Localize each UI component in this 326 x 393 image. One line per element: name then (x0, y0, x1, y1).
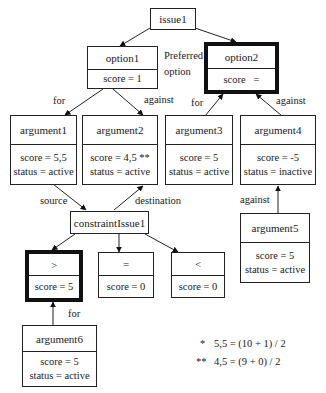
edge-label-for: for (53, 95, 65, 107)
node-title: argument1 (11, 116, 76, 145)
node-score: score = 0 (179, 280, 218, 294)
footnote-text: 4,5 = (9 + 0) / 2 (214, 356, 280, 367)
option1-node[interactable]: option1 score = 1 (87, 46, 158, 89)
node-score: score = 5 (40, 355, 79, 369)
preferred-label-line1: Preferred (164, 50, 203, 62)
edge-label-against: against (240, 194, 270, 206)
greater-than-node[interactable]: > score = 5 (25, 250, 83, 302)
node-score: score = -5 (257, 151, 299, 165)
node-title: > (29, 254, 79, 276)
footnote-marker: ** (196, 356, 214, 367)
node-title: = (99, 253, 153, 276)
node-title: argument4 (241, 116, 315, 145)
footnote-text: 5,5 = (10 + 1) / 2 (214, 338, 286, 349)
issue-node[interactable]: issue1 (150, 8, 196, 30)
node-status: status = active (245, 263, 305, 277)
argument5-node[interactable]: argument5 score = 5 status = active (240, 213, 310, 283)
edge-label-source: source (40, 195, 67, 207)
node-score: score = 0 (107, 280, 146, 294)
node-score: score = (224, 73, 260, 87)
node-title: option1 (88, 47, 157, 70)
node-score: score = 5 (35, 280, 74, 294)
node-title: < (172, 253, 224, 276)
node-status: status = active (13, 165, 73, 179)
footnote: *5,5 = (10 + 1) / 2 (200, 338, 286, 349)
node-status: status = inactive (244, 165, 312, 179)
node-title: argument5 (241, 214, 309, 243)
option2-node-preferred[interactable]: option2 score = (204, 42, 279, 94)
node-title: argument3 (166, 116, 232, 145)
argument1-node[interactable]: argument1 score = 5,5 status = active (10, 115, 77, 185)
edge-label-against: against (276, 95, 306, 107)
preferred-label-line2: option (164, 66, 203, 78)
node-score: score = 4,5 ** (90, 151, 150, 165)
less-than-node[interactable]: < score = 0 (171, 252, 225, 298)
node-title: argument6 (23, 326, 96, 352)
edge-label-destination: destination (135, 195, 181, 207)
equal-node[interactable]: = score = 0 (98, 252, 154, 298)
node-title: constraintIssue1 (71, 212, 148, 233)
node-status: status = active (90, 165, 150, 179)
constraint-issue-node[interactable]: constraintIssue1 (70, 211, 149, 234)
node-score: score = 1 (103, 72, 142, 86)
node-score: score = 5 (180, 151, 219, 165)
footnote-marker: * (200, 338, 214, 349)
node-status: status = active (29, 369, 89, 383)
node-status: status = active (169, 165, 229, 179)
argument2-node[interactable]: argument2 score = 4,5 ** status = active (82, 115, 158, 185)
node-title: issue1 (151, 9, 195, 29)
node-title: argument2 (83, 116, 157, 145)
edge-label-for: for (191, 97, 203, 109)
argument3-node[interactable]: argument3 score = 5 status = active (165, 115, 233, 185)
edge-label-for: for (68, 308, 80, 320)
node-title: option2 (208, 46, 275, 69)
edge-label-against: against (144, 94, 174, 106)
node-score: score = 5 (256, 249, 295, 263)
argument4-node[interactable]: argument4 score = -5 status = inactive (240, 115, 316, 185)
footnote: **4,5 = (9 + 0) / 2 (196, 356, 280, 367)
node-score: score = 5,5 (20, 151, 66, 165)
preferred-option-label: Preferred option (164, 50, 203, 78)
argument6-node[interactable]: argument6 score = 5 status = active (22, 325, 97, 387)
